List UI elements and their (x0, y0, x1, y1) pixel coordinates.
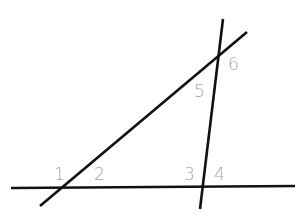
angle-label-4: 4 (214, 164, 225, 184)
angle-label-2: 2 (94, 164, 105, 184)
triangle-diagram: 1 2 3 4 5 6 (0, 0, 300, 223)
angle-label-5: 5 (194, 81, 205, 101)
angle-label-6: 6 (228, 54, 239, 74)
angle-label-3: 3 (184, 164, 195, 184)
horizontal-line (11, 186, 295, 188)
angle-label-1: 1 (54, 164, 65, 184)
